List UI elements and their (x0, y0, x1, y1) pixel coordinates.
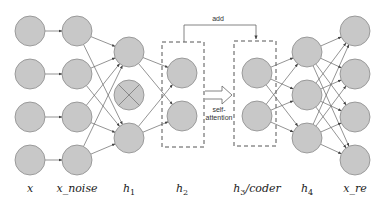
node-h3-1 (242, 101, 272, 131)
node-h4-2 (292, 123, 322, 153)
node-h1-2 (114, 123, 144, 153)
edge (271, 101, 293, 110)
node-x-1 (15, 59, 45, 89)
layer-label-h4: h4 (301, 182, 313, 197)
node-h1-0 (114, 37, 144, 67)
layer-label-h1: h1 (123, 182, 135, 197)
node-h2-0 (167, 58, 197, 88)
edge (143, 58, 168, 68)
edge (321, 37, 342, 46)
edge (271, 58, 293, 67)
edge (321, 123, 342, 132)
edge (143, 122, 168, 132)
node-x_re-1 (340, 59, 370, 89)
layer-label-x: x (27, 182, 34, 195)
node-h2-1 (167, 101, 197, 131)
node-h4-1 (292, 80, 322, 110)
layer-labels: xx_noiseh1h2h3/coderh4x_re (27, 182, 367, 197)
node-h3-0 (242, 58, 272, 88)
layer-label-h2: h2 (176, 182, 188, 197)
node-x-2 (15, 102, 45, 132)
node-x_re-2 (340, 102, 370, 132)
edge (91, 144, 115, 154)
layer-label-x_noise: x_noise (56, 182, 98, 195)
layer-label-h3: h3/coder (233, 182, 281, 197)
add-skip-connection: add (184, 15, 256, 42)
self-attention-label-line1: self- (212, 106, 226, 113)
node-x_noise-2 (62, 102, 92, 132)
node-x_noise-0 (62, 16, 92, 46)
node-x-0 (15, 16, 45, 46)
neuron-nodes (15, 16, 370, 175)
layer-label-x_re: x_re (343, 182, 367, 195)
edge (271, 122, 294, 132)
node-x_noise-1 (62, 59, 92, 89)
edge (321, 144, 342, 154)
node-x_re-0 (340, 16, 370, 46)
edge (91, 58, 115, 68)
edge (91, 37, 115, 47)
add-label: add (212, 15, 224, 22)
self-attention-label-line2: attention (206, 114, 233, 121)
autoencoder-diagram: add self- attention xx_noiseh1h2h3/coder… (0, 0, 387, 208)
self-attention-arrow: self- attention (205, 86, 233, 121)
node-h4-0 (292, 37, 322, 67)
node-x_re-3 (340, 145, 370, 175)
node-x_noise-3 (62, 145, 92, 175)
node-x-3 (15, 145, 45, 175)
